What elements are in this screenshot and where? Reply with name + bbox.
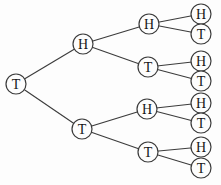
tree-node-t: T (72, 119, 92, 139)
node-label: T (144, 145, 153, 160)
tree-node-h: H (73, 34, 93, 54)
coin-flip-tree-diagram: THTHTHTHTHTHTHT (0, 0, 221, 185)
tree-node-root: T (6, 74, 26, 94)
node-label: T (78, 122, 87, 137)
node-label: T (197, 161, 206, 176)
node-label: H (78, 37, 88, 52)
tree-node-hth: H (191, 51, 211, 71)
tree-node-htt: T (191, 71, 211, 91)
node-label: H (196, 7, 206, 22)
node-label: H (144, 17, 154, 32)
node-label: T (12, 77, 21, 92)
node-label: H (196, 54, 206, 69)
tree-node-th: H (137, 99, 157, 119)
tree-node-tt: T (138, 142, 158, 162)
tree-edge-root-t (16, 84, 82, 129)
node-label: T (197, 74, 206, 89)
tree-node-tht: T (191, 113, 211, 133)
tree-node-ht: T (138, 57, 158, 77)
tree-edge-root-h (16, 44, 83, 84)
tree-node-hh: H (139, 14, 159, 34)
node-label: T (144, 60, 153, 75)
tree-node-hhh: H (191, 4, 211, 24)
node-label: T (197, 116, 206, 131)
node-label: H (196, 96, 206, 111)
node-label: H (142, 102, 152, 117)
node-label: T (197, 27, 206, 42)
node-label: H (196, 140, 206, 155)
tree-node-tth: H (191, 137, 211, 157)
tree-node-hht: T (191, 24, 211, 44)
tree-node-thh: H (191, 93, 211, 113)
tree-node-ttt: T (191, 158, 211, 178)
